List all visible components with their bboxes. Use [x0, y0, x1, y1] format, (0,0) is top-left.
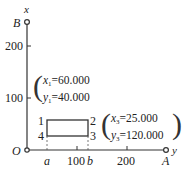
- corner-label-2: 2: [90, 115, 96, 127]
- tick-label-v-200: 200: [5, 40, 23, 52]
- left-paren-3: (: [101, 109, 111, 139]
- marker-b-label: b: [87, 155, 93, 167]
- point-b-label: B: [13, 17, 20, 29]
- point1-annotation: x1=60.000 y1=40.000: [43, 74, 90, 108]
- corner-label-4: 4: [38, 130, 44, 142]
- left-paren-1: (: [33, 71, 43, 101]
- corner-label-1: 1: [38, 115, 44, 127]
- origin-label: O: [12, 145, 21, 157]
- tick-label-h-100: 100: [67, 155, 85, 167]
- point-a-marker: [164, 148, 169, 153]
- point-a-label: A: [162, 155, 169, 167]
- rectangle-region: [47, 120, 88, 136]
- marker-a-label: a: [44, 155, 50, 167]
- horizontal-axis-label: y: [172, 144, 177, 156]
- point3-annotation: x3=25.000 y3=120.000: [111, 112, 163, 146]
- diagram-canvas: [0, 0, 189, 174]
- origin-marker: [25, 148, 29, 152]
- point-b-marker: [25, 20, 30, 25]
- corner-label-3: 3: [90, 130, 96, 142]
- tick-label-v-100: 100: [5, 92, 23, 104]
- tick-label-h-200: 200: [117, 155, 135, 167]
- vertical-axis-label: x: [24, 3, 29, 15]
- right-paren-3: ): [172, 109, 182, 139]
